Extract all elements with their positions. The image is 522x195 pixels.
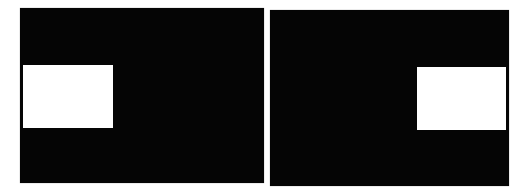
left-white-rectangle <box>23 65 113 128</box>
right-white-rectangle <box>417 67 506 130</box>
